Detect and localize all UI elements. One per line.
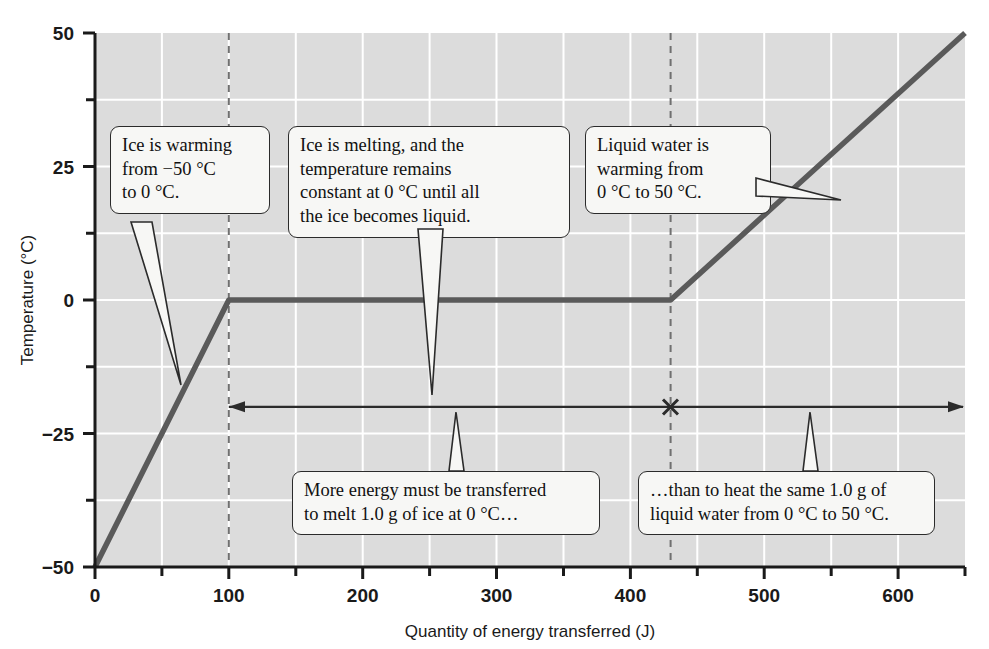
x-tick-label-600: 600 [882, 585, 914, 606]
x-tick-label-300: 300 [481, 585, 513, 606]
callout-ice-melting-line1: Ice is melting, and the [300, 134, 558, 158]
heating-curve-figure: 50 25 0 −25 −50 0 100 200 300 400 500 60… [0, 0, 989, 649]
y-tick-label-minus25: −25 [42, 424, 75, 445]
callout-ice-melting-line4: the ice becomes liquid. [300, 205, 558, 229]
y-major-ticks [83, 33, 95, 567]
callout-liquid-warming: Liquid water is warming from 0 °C to 50 … [585, 126, 771, 214]
x-major-ticks [95, 567, 898, 579]
y-tick-label-minus50: −50 [42, 557, 74, 578]
callout-ice-warming-line2: from −50 °C [122, 158, 258, 182]
y-tick-label-0: 0 [63, 290, 74, 311]
callout-more-energy: More energy must be transferred to melt … [292, 471, 600, 535]
x-tick-label-0: 0 [90, 585, 101, 606]
callout-liquid-warming-line1: Liquid water is [597, 134, 759, 158]
x-tick-label-100: 100 [213, 585, 245, 606]
callout-liquid-warming-line3: 0 °C to 50 °C. [597, 181, 759, 205]
x-tick-label-400: 400 [615, 585, 647, 606]
y-tick-label-25: 25 [53, 157, 75, 178]
chart-canvas: 50 25 0 −25 −50 0 100 200 300 400 500 60… [0, 0, 989, 649]
y-axis-title: Temperature (°C) [18, 235, 37, 366]
x-tick-label-200: 200 [347, 585, 379, 606]
callout-more-energy-line2: to melt 1.0 g of ice at 0 °C… [304, 503, 588, 527]
callout-ice-warming-line1: Ice is warming [122, 134, 258, 158]
callout-liquid-warming-line2: warming from [597, 158, 759, 182]
callout-less-energy-line1: …than to heat the same 1.0 g of [650, 479, 923, 503]
callout-ice-melting: Ice is melting, and the temperature rema… [288, 126, 570, 238]
callout-ice-warming-line3: to 0 °C. [122, 181, 258, 205]
y-tick-label-50: 50 [53, 23, 74, 44]
callout-ice-melting-line2: temperature remains [300, 158, 558, 182]
callout-less-energy-line2: liquid water from 0 °C to 50 °C. [650, 503, 923, 527]
callout-ice-melting-line3: constant at 0 °C until all [300, 181, 558, 205]
callout-less-energy: …than to heat the same 1.0 g of liquid w… [638, 471, 935, 535]
callout-ice-warming: Ice is warming from −50 °C to 0 °C. [110, 126, 270, 214]
x-tick-label-500: 500 [748, 585, 780, 606]
x-axis-title: Quantity of energy transferred (J) [405, 622, 655, 641]
callout-more-energy-line1: More energy must be transferred [304, 479, 588, 503]
